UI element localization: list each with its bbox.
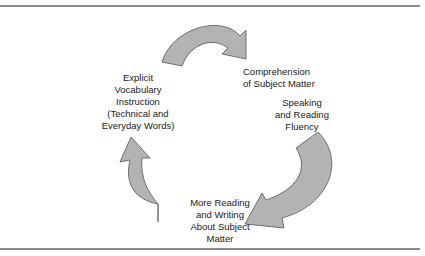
bottom-divider xyxy=(0,248,420,250)
node-comprehension: Comprehension of Subject Matter xyxy=(243,66,343,90)
arrow-reading-writing-to-vocab-icon xyxy=(120,137,158,222)
node-vocabulary-instruction: Explicit Vocabulary Instruction (Technic… xyxy=(88,72,188,132)
node-speaking-reading-fluency: Speaking and Reading Fluency xyxy=(262,97,342,133)
arrow-vocab-to-comprehension-icon xyxy=(162,25,246,66)
node-more-reading-writing: More Reading and Writing About Subject M… xyxy=(170,197,270,245)
